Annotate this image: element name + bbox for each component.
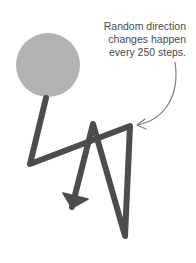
ball-shape [16, 33, 80, 97]
annotation-line-2: changes happen [76, 33, 186, 46]
walk-path [30, 98, 130, 236]
annotation-line-3: every 250 steps. [76, 46, 186, 59]
annotation-line-1: Random direction [76, 20, 186, 33]
walk-arrowhead-icon [63, 193, 88, 208]
annotation-text: Random direction changes happen every 25… [76, 20, 186, 59]
callout-pointer-line [137, 62, 176, 125]
